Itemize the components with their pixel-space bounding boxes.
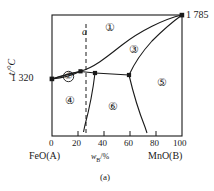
region-label-5: ⑤ [157, 77, 167, 88]
phase-diagram-figure: ① ② ③ ④ ⑤ ⑥ a 1 320 1 785 t/°C 0 20 40 6… [0, 0, 214, 191]
node-eutectic-right [127, 73, 131, 77]
region-label-6: ⑥ [108, 101, 118, 112]
x-tick-label-80: 80 [150, 139, 159, 148]
region-label-4: ④ [65, 95, 75, 106]
node-eutectic-left [93, 71, 97, 75]
x-tick-label-60: 60 [124, 139, 133, 148]
right-endpoint-temp-label: 1 785 [186, 10, 209, 20]
x-tick-label-100: 100 [173, 139, 187, 148]
x-tick-label-40: 40 [98, 139, 107, 148]
node-right-melting-point [180, 13, 185, 18]
x-axis-label-tail: /% [100, 152, 109, 161]
x-tick-label-20: 20 [72, 139, 81, 148]
node-lens-upper [78, 69, 82, 73]
y-axis-label: t/°C [7, 52, 17, 82]
node-left-melting-point [50, 77, 55, 82]
vertical-line-label-a: a [82, 27, 87, 37]
region-label-1: ① [105, 22, 115, 33]
region-label-2: ② [64, 72, 72, 81]
figure-caption: (a) [100, 173, 110, 182]
region-label-3: ③ [129, 44, 139, 55]
x-axis-label: wB/% [91, 153, 109, 163]
right-component-label: MnO(B) [148, 151, 182, 161]
x-tick-label-0: 0 [49, 139, 54, 148]
left-component-label: FeO(A) [29, 151, 60, 161]
